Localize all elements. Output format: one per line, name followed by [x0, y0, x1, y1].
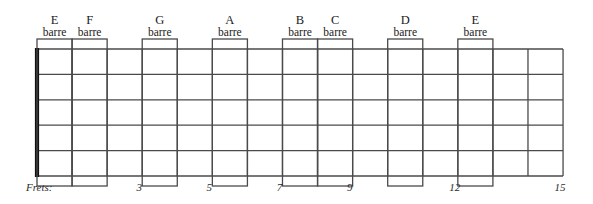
barre-note-letter: F	[86, 13, 93, 27]
barre-word-label: barre	[78, 26, 102, 38]
barre-note-letter: B	[296, 13, 304, 27]
barre-note-letter: A	[225, 13, 234, 27]
barre-box-c-9[interactable]	[318, 39, 353, 186]
frets-caption: Frets:	[25, 181, 52, 193]
barre-note-letter: C	[331, 13, 339, 27]
barre-word-label: barre	[43, 26, 67, 38]
fretboard-diagram: EbarreFbarreGbarreAbarreBbarreCbarreDbar…	[0, 0, 593, 204]
barre-note-letter: E	[51, 13, 59, 27]
fret-number-9: 9	[347, 181, 353, 193]
barre-box-e-13[interactable]	[458, 39, 493, 186]
barre-box-b-8[interactable]	[282, 39, 317, 186]
barre-word-label: barre	[218, 26, 242, 38]
barre-boxes-group	[37, 39, 493, 186]
strings-group	[37, 49, 563, 176]
fret-number-7: 7	[277, 181, 283, 193]
fret-number-12: 12	[449, 181, 461, 193]
barre-box-g-4[interactable]	[142, 39, 177, 186]
barre-box-f-2[interactable]	[72, 39, 107, 186]
barre-box-e-1[interactable]	[37, 39, 72, 186]
barre-labels-group: EbarreFbarreGbarreAbarreBbarreCbarreDbar…	[43, 13, 487, 38]
barre-word-label: barre	[464, 26, 488, 38]
barre-box-d-11[interactable]	[388, 39, 423, 186]
barre-word-label: barre	[393, 26, 417, 38]
fret-markers-group: 35791215	[135, 181, 566, 193]
barre-note-letter: E	[472, 13, 480, 27]
fret-number-15: 15	[555, 181, 567, 193]
barre-box-a-6[interactable]	[212, 39, 247, 186]
barre-word-label: barre	[148, 26, 172, 38]
barre-note-letter: G	[155, 13, 164, 27]
barre-note-letter: D	[401, 13, 410, 27]
fretboard-svg: EbarreFbarreGbarreAbarreBbarreCbarreDbar…	[0, 0, 593, 204]
barre-word-label: barre	[323, 26, 347, 38]
fret-number-3: 3	[135, 181, 142, 193]
fret-number-5: 5	[207, 181, 213, 193]
barre-word-label: barre	[288, 26, 312, 38]
